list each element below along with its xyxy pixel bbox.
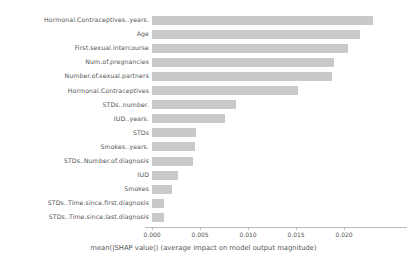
bar-category-label: IUD — [138, 168, 149, 182]
x-axis-tick — [200, 227, 201, 230]
shap-feature-importance-chart: Hormonal.Contraceptives..years.AgeFirst.… — [0, 0, 407, 265]
bar-category-label: First.sexual.intercourse — [75, 41, 149, 55]
bar-category-label: STDs..Time.since.last.diagnosis — [49, 210, 149, 224]
bar-row: IUD..years. — [0, 112, 407, 126]
bar-category-label: Age — [137, 27, 149, 41]
bar-row: IUD — [0, 168, 407, 182]
bar-category-label: Hormonal.Contraceptives..years. — [44, 13, 149, 27]
bar — [152, 185, 172, 194]
x-axis-tick — [344, 227, 345, 230]
x-axis-tick-label: 0.020 — [335, 231, 352, 238]
bar — [152, 44, 348, 53]
bar — [152, 30, 360, 39]
bar-category-label: STDs — [133, 126, 149, 140]
bar-row: Smokes..years. — [0, 140, 407, 154]
bar-row: STDs..Time.since.first.diagnosis — [0, 196, 407, 210]
bar — [152, 100, 236, 109]
bar — [152, 128, 196, 137]
bar — [152, 16, 373, 25]
bar-category-label: STDs..number. — [103, 98, 149, 112]
bar — [152, 171, 178, 180]
x-axis-tick — [152, 227, 153, 230]
bar-row: Number.of.sexual.partners — [0, 69, 407, 83]
bar-row: STDs..Number.of.diagnosis — [0, 154, 407, 168]
bar-row: STDs..Time.since.last.diagnosis — [0, 210, 407, 224]
bar — [152, 199, 164, 208]
x-axis-tick — [248, 227, 249, 230]
bar-row: First.sexual.intercourse — [0, 41, 407, 55]
bar-row: Num.of.pregnancies — [0, 55, 407, 69]
bar-row: Hormonal.Contraceptives..years. — [0, 13, 407, 27]
x-axis-tick-label: 0.005 — [191, 231, 208, 238]
bar — [152, 142, 195, 151]
bar-row: Hormonal.Contraceptives — [0, 84, 407, 98]
bar — [152, 58, 334, 67]
x-axis-tick — [296, 227, 297, 230]
bar — [152, 72, 332, 81]
bar-category-label: STDs..Number.of.diagnosis — [64, 154, 149, 168]
bar-row: Smokes — [0, 182, 407, 196]
bar — [152, 86, 298, 95]
bar — [152, 213, 164, 222]
bar-row: Age — [0, 27, 407, 41]
bar-category-label: Number.of.sexual.partners — [65, 69, 149, 83]
bar — [152, 114, 225, 123]
bar-row: STDs — [0, 126, 407, 140]
bar-row: STDs..number. — [0, 98, 407, 112]
bar-category-label: STDs..Time.since.first.diagnosis — [48, 196, 149, 210]
bar-category-label: Num.of.pregnancies — [85, 55, 149, 69]
plot-area: Hormonal.Contraceptives..years.AgeFirst.… — [0, 0, 407, 265]
bar-category-label: Smokes..years. — [101, 140, 149, 154]
x-axis-tick-label: 0.010 — [239, 231, 256, 238]
bar-category-label: IUD..years. — [114, 112, 149, 126]
x-axis-line — [145, 227, 407, 228]
x-axis-tick-label: 0.015 — [287, 231, 304, 238]
x-axis-tick-label: 0.000 — [143, 231, 160, 238]
bar-category-label: Hormonal.Contraceptives — [68, 84, 149, 98]
bar — [152, 157, 193, 166]
bar-category-label: Smokes — [124, 182, 149, 196]
x-axis-label: mean(|SHAP value|) (average impact on mo… — [0, 244, 407, 252]
